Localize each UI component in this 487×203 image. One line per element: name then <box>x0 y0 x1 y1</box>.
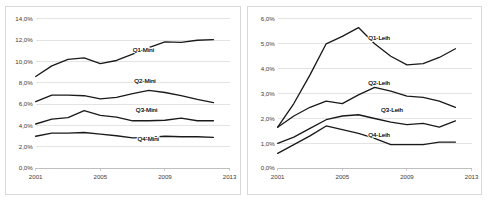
x-axis-tick-label: 2009 <box>158 173 172 180</box>
screenshot-root: 0,0%2,0%4,0%6,0%8,0%10,0%12,0%14,0%20012… <box>0 0 487 203</box>
series-line <box>36 111 214 124</box>
series-label: Q2-Leih <box>368 79 390 86</box>
x-axis-tick-label: 2005 <box>335 173 349 180</box>
x-axis-tick-label: 2001 <box>29 173 43 180</box>
series-line <box>36 40 214 77</box>
y-axis-tick-label: 8,0% <box>19 79 34 86</box>
y-axis-tick-label: 4,0% <box>19 122 34 129</box>
series-label: Q2-Mini <box>134 77 155 84</box>
y-axis-tick-label: 14,0% <box>15 15 33 22</box>
series-label: Q4-Leih <box>368 131 390 138</box>
x-axis-tick-label: 2001 <box>270 173 284 180</box>
x-axis-tick-label: 2013 <box>464 173 478 180</box>
x-axis-tick-label: 2013 <box>223 173 237 180</box>
y-axis-tick-label: 2,0% <box>260 115 275 122</box>
y-axis-tick-label: 2,0% <box>19 143 34 150</box>
y-axis-tick-label: 0,0% <box>19 164 34 171</box>
series-line <box>277 126 455 153</box>
series-label: Q4-Mini <box>137 135 158 142</box>
y-axis-tick-label: 3,0% <box>260 90 275 97</box>
line-chart-mini: 0,0%2,0%4,0%6,0%8,0%10,0%12,0%14,0%20012… <box>6 7 240 194</box>
chart-panel-leih: 0,0%1,0%2,0%3,0%4,0%5,0%6,0%200120052009… <box>247 6 483 195</box>
y-axis-tick-label: 10,0% <box>15 58 33 65</box>
y-axis-tick-label: 6,0% <box>19 100 34 107</box>
series-line <box>36 90 214 102</box>
series-label: Q3-Leih <box>381 106 403 113</box>
series-line <box>277 28 455 128</box>
series-label: Q1-Leih <box>368 34 390 41</box>
y-axis-tick-label: 6,0% <box>260 15 275 22</box>
series-line <box>36 133 214 138</box>
series-label: Q3-Mini <box>136 106 157 113</box>
y-axis-tick-label: 0,0% <box>260 164 275 171</box>
chart-panel-mini: 0,0%2,0%4,0%6,0%8,0%10,0%12,0%14,0%20012… <box>5 6 241 195</box>
y-axis-tick-label: 4,0% <box>260 65 275 72</box>
y-axis-tick-label: 5,0% <box>260 40 275 47</box>
y-axis-tick-label: 12,0% <box>15 36 33 43</box>
line-chart-leih: 0,0%1,0%2,0%3,0%4,0%5,0%6,0%200120052009… <box>248 7 482 194</box>
x-axis-tick-label: 2005 <box>94 173 108 180</box>
x-axis-tick-label: 2009 <box>400 173 414 180</box>
y-axis-tick-label: 1,0% <box>260 140 275 147</box>
series-label: Q1-Mini <box>133 46 154 53</box>
